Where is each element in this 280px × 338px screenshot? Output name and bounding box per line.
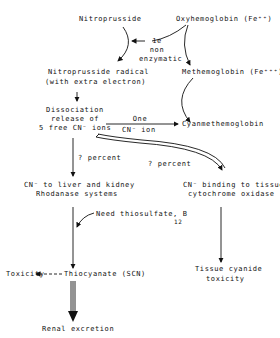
- one-cn-label: One: [120, 115, 160, 124]
- tissue-toxicity-node: Tissue cyanide: [195, 265, 262, 274]
- percent-right-label: ? percent: [148, 160, 191, 169]
- toxicity-node: Toxicity: [6, 270, 45, 279]
- electron-label: 1e: [140, 37, 174, 46]
- liver-node-2: Rhodanase systems: [36, 190, 118, 199]
- b12-subscript: 12: [174, 217, 182, 226]
- methemoglobin-node: Methemoglobin (Fe⁺⁺⁺): [182, 68, 280, 77]
- nitroprusside-node: Nitroprusside: [79, 15, 142, 24]
- renal-excretion-node: Renal excretion: [42, 325, 114, 334]
- one-cn-label-2: CN⁻ ion: [122, 126, 156, 135]
- cyanmethemoglobin-node: Cyanmethemoglobin: [182, 120, 264, 129]
- enzymatic-label: enzymatic: [139, 55, 182, 64]
- non-label: non: [140, 46, 174, 55]
- tissue-binding-node-2: cytochrome oxidase: [188, 190, 275, 199]
- radical-node-sub: (with extra electron): [45, 78, 146, 87]
- tissue-toxicity-node-2: toxicity: [206, 275, 245, 284]
- percent-left-label: ? percent: [78, 154, 121, 163]
- dissociation-node-3: 5 free CN⁻ ions: [39, 124, 111, 133]
- dissociation-node-2: release of: [40, 115, 110, 124]
- tissue-binding-node: CN⁻ binding to tissue: [183, 181, 280, 190]
- dissociation-node: Dissociation: [40, 106, 110, 115]
- liver-node: CN⁻ to liver and kidney: [24, 181, 135, 190]
- thiocyanate-node: Thiocyanate (SCN): [64, 270, 146, 279]
- oxyhemoglobin-node: Oxyhemoglobin (Fe⁺⁺): [176, 15, 272, 24]
- radical-node: Nitroprusside radical: [48, 68, 149, 77]
